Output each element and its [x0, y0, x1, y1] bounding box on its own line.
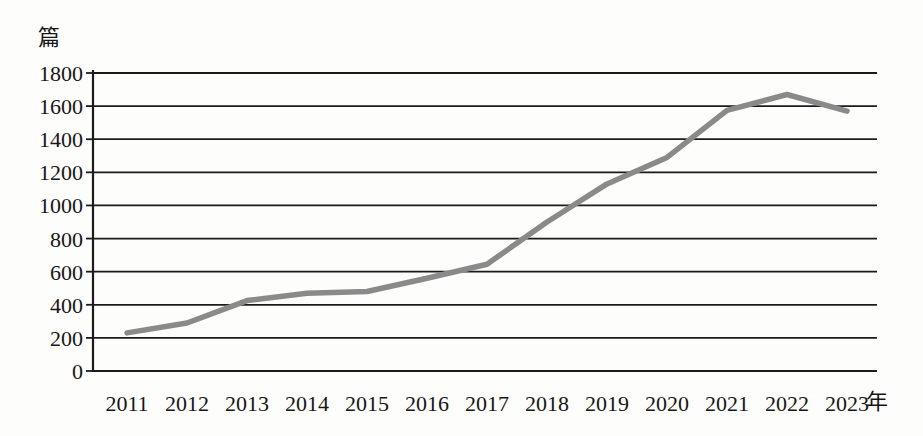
- x-tick-label: 2017: [465, 391, 509, 416]
- y-tick-label: 1400: [39, 127, 83, 152]
- x-tick-label: 2016: [405, 391, 449, 416]
- x-tick-labels: 2011201220132014201520162017201820192020…: [105, 391, 869, 416]
- x-tick-label: 2019: [585, 391, 629, 416]
- y-tick-label: 800: [50, 227, 83, 252]
- y-tick-label: 1200: [39, 160, 83, 185]
- y-tick-labels: 020040060080010001200140016001800: [39, 61, 83, 384]
- x-tick-label: 2021: [705, 391, 749, 416]
- line-chart-figure: 篇 020040060080010001200140016001800 2011…: [0, 0, 923, 436]
- gridlines: [93, 73, 877, 371]
- y-tick-label: 200: [50, 326, 83, 351]
- x-axis-unit-label: 年: [866, 391, 888, 413]
- x-tick-label: 2020: [645, 391, 689, 416]
- y-tick-label: 1600: [39, 94, 83, 119]
- y-tick-label: 600: [50, 260, 83, 285]
- x-tick-label: 2015: [345, 391, 389, 416]
- y-tick-label: 0: [72, 359, 83, 384]
- x-tick-label: 2013: [225, 391, 269, 416]
- y-tick-label: 1000: [39, 193, 83, 218]
- x-tick-label: 2023: [825, 391, 869, 416]
- x-tick-label: 2018: [525, 391, 569, 416]
- y-axis: [86, 70, 93, 372]
- series-line: [127, 95, 847, 333]
- x-tick-label: 2014: [285, 391, 329, 416]
- y-tick-label: 400: [50, 293, 83, 318]
- data-line: [127, 95, 847, 333]
- publications-trend-chart: 020040060080010001200140016001800 201120…: [0, 0, 923, 436]
- x-tick-label: 2011: [105, 391, 148, 416]
- x-tick-label: 2012: [165, 391, 209, 416]
- x-tick-label: 2022: [765, 391, 809, 416]
- y-tick-label: 1800: [39, 61, 83, 86]
